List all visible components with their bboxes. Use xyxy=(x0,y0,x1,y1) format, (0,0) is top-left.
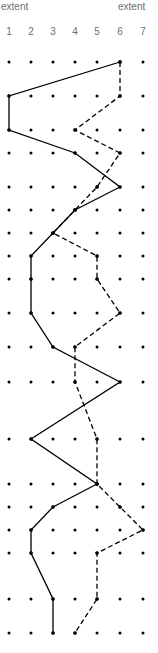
grid-dot xyxy=(119,552,122,555)
grid-dot xyxy=(74,186,77,189)
grid-dot xyxy=(52,529,55,532)
grid-dot xyxy=(30,381,33,384)
grid-dot xyxy=(119,438,122,441)
grid-dot xyxy=(119,632,122,635)
grid-dot xyxy=(8,61,11,64)
solid-series-point xyxy=(29,437,33,441)
grid-dot xyxy=(8,152,11,155)
solid-series-point xyxy=(51,597,55,601)
grid-dot xyxy=(96,232,99,235)
grid-dot xyxy=(96,506,99,509)
dashed-series-point xyxy=(95,185,99,189)
grid-dot xyxy=(30,598,33,601)
dashed-series-point xyxy=(95,277,99,281)
grid-dot xyxy=(96,95,99,98)
grid-dot xyxy=(142,186,145,189)
grid-dot xyxy=(142,61,145,64)
grid-dot xyxy=(8,438,11,441)
column-tick-label: 6 xyxy=(117,26,123,37)
dashed-series-point xyxy=(95,597,99,601)
grid-dot xyxy=(8,483,11,486)
column-tick-labels: 1234567 xyxy=(6,26,146,37)
grid-dot xyxy=(142,209,145,212)
grid-dot xyxy=(52,438,55,441)
grid-dot xyxy=(74,61,77,64)
profile-chart: 1234567 xyxy=(0,0,158,653)
grid-dot xyxy=(142,552,145,555)
grid-dot xyxy=(96,381,99,384)
grid-dot xyxy=(142,483,145,486)
grid-dot xyxy=(96,129,99,132)
grid-dot xyxy=(142,346,145,349)
grid-dot xyxy=(142,129,145,132)
dashed-series-point xyxy=(73,380,77,384)
grid-dot xyxy=(30,186,33,189)
grid-dot xyxy=(119,278,122,281)
grid-dot xyxy=(30,232,33,235)
grid-dot xyxy=(52,129,55,132)
column-tick-label: 2 xyxy=(28,26,34,37)
grid-dot xyxy=(52,552,55,555)
grid-dot xyxy=(52,312,55,315)
grid-dot xyxy=(74,278,77,281)
solid-series-point xyxy=(51,631,55,635)
column-tick-label: 1 xyxy=(6,26,12,37)
grid-dot xyxy=(8,209,11,212)
solid-series-point xyxy=(51,345,55,349)
grid-dot xyxy=(142,232,145,235)
grid-dot xyxy=(30,129,33,132)
grid-dot xyxy=(8,632,11,635)
grid-dot xyxy=(119,232,122,235)
grid-dot xyxy=(52,61,55,64)
grid-dot xyxy=(119,346,122,349)
dashed-series-point xyxy=(118,311,122,315)
grid-dot xyxy=(52,278,55,281)
grid-dot xyxy=(8,598,11,601)
grid-dot xyxy=(119,209,122,212)
grid-dot xyxy=(74,232,77,235)
grid-dot xyxy=(142,95,145,98)
grid-dot xyxy=(8,255,11,258)
dashed-series-point xyxy=(118,94,122,98)
grid-dot xyxy=(119,529,122,532)
grid-dot xyxy=(8,529,11,532)
grid-dot xyxy=(52,483,55,486)
grid-dot xyxy=(119,129,122,132)
grid-dot xyxy=(96,346,99,349)
grid-dot xyxy=(142,255,145,258)
grid-dot xyxy=(52,186,55,189)
solid-series-point xyxy=(29,277,33,281)
grid-dot xyxy=(8,506,11,509)
grid-dot xyxy=(142,632,145,635)
solid-series-point xyxy=(7,128,11,132)
solid-series-point xyxy=(7,94,11,98)
dashed-series-point xyxy=(73,128,77,132)
grid-dot xyxy=(52,255,55,258)
grid-dot xyxy=(30,632,33,635)
grid-dot xyxy=(8,381,11,384)
grid-dot xyxy=(8,186,11,189)
grid-dot xyxy=(30,506,33,509)
grid-dot xyxy=(52,152,55,155)
grid-dot xyxy=(119,483,122,486)
dashed-series-point xyxy=(73,345,77,349)
dashed-series-point xyxy=(95,437,99,441)
grid-dot xyxy=(52,381,55,384)
dashed-series-point xyxy=(118,151,122,155)
solid-series-point xyxy=(51,505,55,509)
dashed-series-point xyxy=(95,254,99,258)
dashed-series-point xyxy=(95,482,99,486)
grid-dot xyxy=(8,552,11,555)
grid-dot xyxy=(142,312,145,315)
grid-dot xyxy=(96,209,99,212)
grid-dot xyxy=(96,312,99,315)
grid-dot xyxy=(96,61,99,64)
solid-series-line xyxy=(9,62,120,633)
solid-series-point xyxy=(29,528,33,532)
grid-dot xyxy=(74,312,77,315)
column-tick-label: 4 xyxy=(72,26,78,37)
grid-dot xyxy=(96,152,99,155)
column-tick-label: 7 xyxy=(140,26,146,37)
grid-dot xyxy=(74,255,77,258)
grid-dot xyxy=(30,95,33,98)
